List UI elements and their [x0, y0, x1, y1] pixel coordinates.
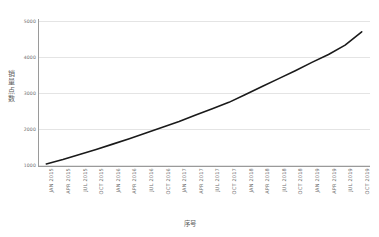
- y-axis-tick-labels: 10002000300040005000: [0, 0, 36, 237]
- x-axis-tick-label: JAN 2017: [181, 168, 187, 192]
- x-axis-title: 序号: [0, 219, 379, 228]
- x-axis-tick-label: JUL 2016: [148, 168, 154, 192]
- x-axis-tick-label: OCT 2017: [231, 168, 237, 194]
- x-axis-tick-label: OCT 2016: [165, 168, 171, 194]
- x-axis-tick-label: JAN 2019: [314, 168, 320, 192]
- x-axis-tick-label: APR 2019: [331, 168, 337, 194]
- x-axis-tick-label: APR 2018: [264, 168, 270, 194]
- y-axis-tick-label: 2000: [4, 127, 36, 132]
- x-axis-tick-labels: JAN 2015APR 2015JUL 2015OCT 2015JAN 2016…: [38, 168, 370, 214]
- x-axis-tick-label: JUL 2017: [214, 168, 220, 192]
- x-axis-tick-label: OCT 2019: [364, 168, 370, 194]
- x-axis-tick-label: JAN 2018: [248, 168, 254, 192]
- x-axis-tick-label: APR 2016: [131, 168, 137, 194]
- x-axis-tick-label: OCT 2015: [98, 168, 104, 194]
- x-axis-tick-label: JAN 2015: [48, 168, 54, 192]
- x-axis-tick-label: JUL 2019: [347, 168, 353, 192]
- x-axis-tick-label: JUL 2018: [281, 168, 287, 192]
- line-chart: 销量点数 10002000300040005000 JAN 2015APR 20…: [0, 0, 379, 237]
- x-axis-line: [38, 166, 370, 167]
- y-axis-tick-label: 4000: [4, 55, 36, 60]
- series-line: [38, 21, 370, 165]
- y-axis-tick-label: 5000: [4, 19, 36, 24]
- y-axis-tick-label: 3000: [4, 91, 36, 96]
- x-axis-tick-label: APR 2017: [198, 168, 204, 194]
- x-axis-tick-label: APR 2015: [65, 168, 71, 194]
- x-axis-tick-label: OCT 2018: [297, 168, 303, 194]
- x-axis-tick-label: JUL 2015: [82, 168, 88, 192]
- x-axis-tick-label: JAN 2016: [115, 168, 121, 192]
- y-axis-tick-label: 1000: [4, 163, 36, 168]
